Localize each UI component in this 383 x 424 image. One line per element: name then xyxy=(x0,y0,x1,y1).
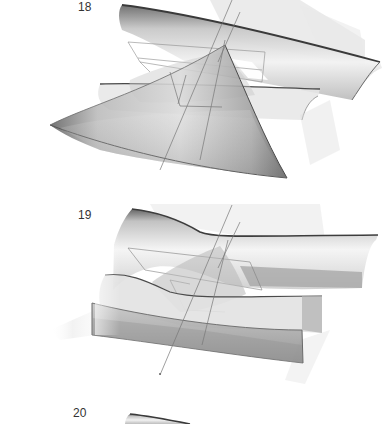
surface-diagrams xyxy=(0,0,383,424)
axis-endpoint xyxy=(159,373,161,375)
figure-20 xyxy=(125,414,190,424)
back-wall-right xyxy=(302,296,322,333)
figure-number-18: 18 xyxy=(78,0,91,14)
figure-number-19: 19 xyxy=(78,208,91,222)
figure-canvas: 18 19 20 xyxy=(0,0,383,424)
figure-18 xyxy=(50,0,382,178)
translucent-plane xyxy=(50,310,95,340)
figure-19 xyxy=(50,204,378,384)
figure-number-20: 20 xyxy=(73,406,86,420)
edge-fade xyxy=(95,205,120,335)
translucent-plane-right xyxy=(300,100,340,165)
